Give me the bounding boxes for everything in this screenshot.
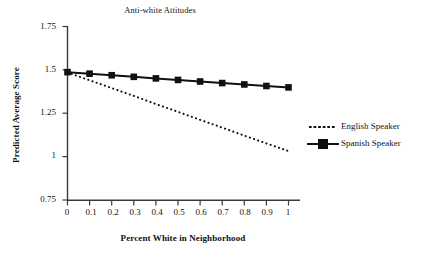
legend-item-english-speaker[interactable]: English Speaker [307, 118, 423, 135]
data-point-marker [64, 69, 71, 76]
series-spanish-speaker [64, 69, 292, 91]
data-series-layer [64, 69, 292, 151]
data-point-marker [108, 72, 115, 79]
legend-label: Spanish Speaker [341, 139, 401, 148]
data-point-marker [285, 84, 292, 91]
chart-legend: English Speaker Spanish Speaker [307, 118, 423, 152]
legend-item-spanish-speaker[interactable]: Spanish Speaker [307, 135, 423, 152]
dotted-line-key-icon [307, 120, 341, 134]
chart-figure: Anti-white Attitudes Predicted Average S… [0, 0, 424, 258]
data-point-marker [263, 83, 270, 90]
x-axis-ticks [68, 201, 289, 206]
legend-label: English Speaker [341, 122, 400, 131]
data-point-marker [219, 80, 226, 87]
data-point-marker [86, 70, 93, 77]
data-point-marker [241, 81, 248, 88]
data-point-marker [131, 74, 138, 81]
solid-line-square-marker-key-icon [307, 137, 341, 151]
y-axis-ticks [63, 27, 68, 201]
data-point-marker [175, 77, 182, 84]
data-point-marker [197, 78, 204, 85]
data-point-marker [153, 75, 160, 82]
